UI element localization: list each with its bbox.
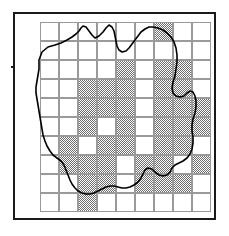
map-canvas <box>15 14 214 218</box>
county-boundary-layer <box>15 14 218 222</box>
left-edge-tick <box>11 66 15 68</box>
county-boundary-icon <box>15 14 218 222</box>
distribution-map-figure <box>0 0 229 236</box>
county-boundary-path <box>36 25 196 194</box>
map-frame <box>13 12 216 220</box>
